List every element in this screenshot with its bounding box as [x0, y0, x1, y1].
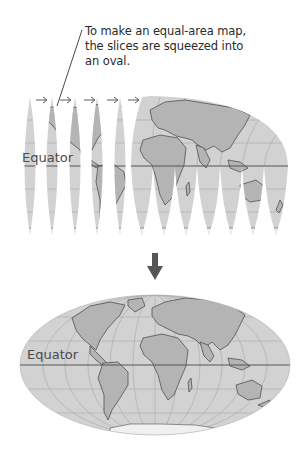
diagram-canvas [0, 0, 306, 455]
oval-equal-area-map [15, 290, 295, 440]
arrow-right-icon [107, 97, 118, 103]
interrupted-gore-map [15, 90, 295, 240]
down-arrow-icon [147, 253, 163, 280]
arrow-right-icon [36, 97, 47, 103]
arrow-right-icon [60, 97, 71, 103]
arrow-right-icon [128, 97, 139, 103]
equator-label-bottom: Equator [27, 347, 78, 362]
callout-leader-line [57, 30, 82, 106]
equator-label-top: Equator [22, 150, 73, 165]
arrow-right-icon [84, 97, 95, 103]
